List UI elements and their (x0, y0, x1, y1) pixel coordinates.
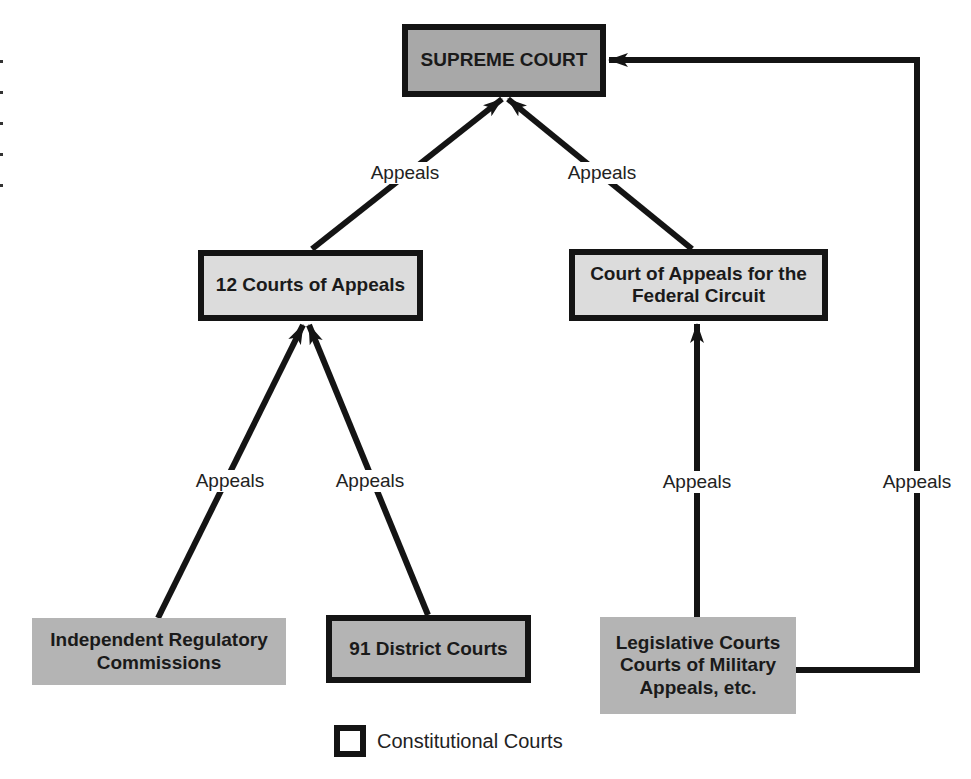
court-system-diagram: SUPREME COURT 12 Courts of Appeals Court… (0, 0, 971, 779)
node-legislative-courts: Legislative Courts Courts of Military Ap… (600, 617, 796, 714)
node-12-courts-of-appeals: 12 Courts of Appeals (198, 250, 423, 321)
node-label: 91 District Courts (349, 638, 507, 660)
node-independent-regulatory-commissions: Independent Regulatory Commissions (32, 618, 286, 685)
node-label-line-2: Commissions (97, 652, 222, 674)
node-supreme-court: SUPREME COURT (402, 24, 606, 97)
edge-label-regulatory-appeals12: Appeals (194, 470, 267, 492)
node-federal-circuit: Court of Appeals for the Federal Circuit (569, 249, 828, 321)
node-label-line-1: Legislative Courts (616, 632, 781, 654)
legend-label: Constitutional Courts (377, 730, 563, 753)
node-label-line-2: Federal Circuit (632, 285, 765, 307)
node-label: SUPREME COURT (421, 49, 588, 71)
edge-label-federal-supreme: Appeals (566, 162, 639, 184)
node-91-district-courts: 91 District Courts (326, 615, 531, 683)
node-label-line-2: Courts of Military (620, 654, 776, 676)
edge-label-legislative-supreme: Appeals (881, 471, 954, 493)
node-label-line-1: Independent Regulatory (50, 629, 267, 651)
edge-label-district-appeals12: Appeals (334, 470, 407, 492)
legend-constitutional-swatch (334, 725, 366, 757)
node-label-line-1: Court of Appeals for the (590, 263, 807, 285)
edge-label-appeals12-supreme: Appeals (369, 162, 442, 184)
edge-legislative-to-supreme (609, 60, 917, 670)
node-label-line-3: Appeals, etc. (639, 677, 756, 699)
edge-label-legislative-federal: Appeals (661, 471, 734, 493)
legend: Constitutional Courts (334, 725, 563, 757)
node-label: 12 Courts of Appeals (216, 274, 405, 296)
